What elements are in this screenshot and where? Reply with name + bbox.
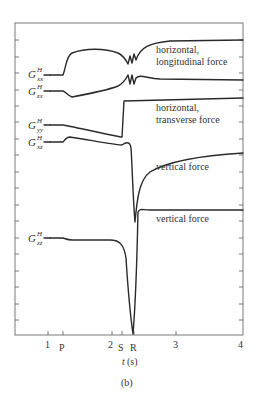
svg-text:t: t xyxy=(122,356,125,367)
label-gyy: G H yy xyxy=(28,117,44,134)
x-tick-4: 4 xyxy=(238,339,243,350)
svg-text:G: G xyxy=(28,85,36,97)
label-gzz: G H zz xyxy=(28,230,43,247)
annotation-transverse-force: transverse force xyxy=(156,114,220,125)
x-tick-2: 2 xyxy=(108,339,113,350)
label-gxz: G H xz xyxy=(28,134,43,151)
svg-text:H: H xyxy=(36,230,43,238)
panel-label: (b) xyxy=(121,377,133,389)
svg-text:G: G xyxy=(28,68,36,80)
label-gzx: G H zx xyxy=(28,83,44,100)
x-tick-p: P xyxy=(59,342,65,353)
seismogram-chart: horizontal, longitudinal force horizonta… xyxy=(0,0,258,404)
x-axis-label: t (s) xyxy=(122,356,138,368)
svg-text:H: H xyxy=(36,117,43,125)
svg-text:G: G xyxy=(28,136,36,148)
svg-text:(s): (s) xyxy=(127,356,138,368)
annotation-vertical-force-2: vertical force xyxy=(156,213,210,224)
left-axis-ticks xyxy=(15,40,19,320)
annotation-longitudinal-force: longitudinal force xyxy=(156,56,228,67)
svg-text:zz: zz xyxy=(36,239,43,247)
curve-gzx xyxy=(50,75,243,97)
annotation-horizontal-1: horizontal, xyxy=(156,44,199,55)
svg-text:yy: yy xyxy=(36,126,44,134)
label-gxx: G H xx xyxy=(28,66,44,83)
x-tick-3: 3 xyxy=(173,339,178,350)
svg-text:H: H xyxy=(36,83,43,91)
label-leaders xyxy=(44,75,50,238)
svg-text:H: H xyxy=(36,134,43,142)
svg-text:G: G xyxy=(28,232,36,244)
plot-frame xyxy=(15,23,243,335)
svg-text:xz: xz xyxy=(36,143,43,151)
curve-gzz xyxy=(50,210,243,335)
x-tick-r: R xyxy=(130,342,137,353)
svg-text:zx: zx xyxy=(36,92,44,100)
annotation-vertical-force-1: vertical force xyxy=(156,161,210,172)
right-axis-ticks xyxy=(239,40,243,320)
svg-text:G: G xyxy=(28,119,36,131)
x-tick-s: S xyxy=(118,342,124,353)
x-tick-1: 1 xyxy=(45,339,50,350)
svg-text:H: H xyxy=(36,66,43,74)
svg-text:xx: xx xyxy=(36,75,44,83)
annotation-horizontal-2: horizontal, xyxy=(156,102,199,113)
bottom-axis-ticks xyxy=(48,331,176,335)
